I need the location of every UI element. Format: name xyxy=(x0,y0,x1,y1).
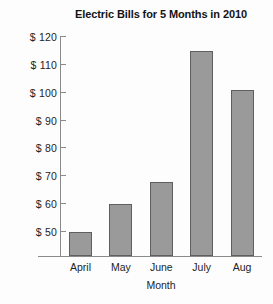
x-tick-label: May xyxy=(98,261,144,273)
x-axis-title: Month xyxy=(60,279,262,291)
bar-july xyxy=(190,51,213,256)
bar-june xyxy=(150,182,173,256)
bar-aug xyxy=(231,90,254,256)
x-tick-label: Aug xyxy=(219,261,265,273)
x-tick-label: July xyxy=(179,261,225,273)
bars-layer xyxy=(0,0,273,304)
bar-may xyxy=(109,204,132,256)
x-tick-label: June xyxy=(138,261,184,273)
bar-chart: Electric Bills for 5 Months in 2010 $ 50… xyxy=(0,0,273,304)
bar-april xyxy=(69,232,92,256)
x-tick-label: April xyxy=(58,261,104,273)
